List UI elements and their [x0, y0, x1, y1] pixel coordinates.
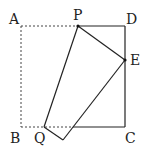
fold-line-PQ	[44, 26, 78, 127]
edge-fold-E	[63, 60, 125, 140]
point-P	[76, 24, 79, 27]
label-A: A	[8, 11, 20, 27]
edge-Q-fold	[44, 127, 63, 140]
label-B: B	[10, 130, 20, 146]
label-D: D	[126, 11, 137, 27]
label-E: E	[130, 52, 140, 68]
label-C: C	[125, 130, 136, 146]
edge-PE	[78, 26, 125, 60]
label-Q: Q	[34, 130, 45, 146]
point-E	[123, 58, 126, 61]
label-P: P	[73, 7, 82, 23]
fold-diagram: A P D E B Q C	[0, 0, 150, 153]
